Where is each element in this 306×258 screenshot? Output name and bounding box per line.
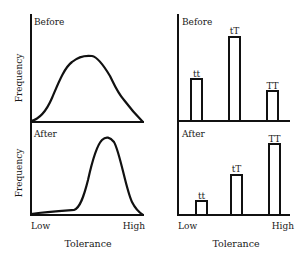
after-bar-tT-label: tT [232, 164, 242, 174]
left-top-y-label: Frequency [14, 53, 24, 103]
right-x-tick-low: Low [178, 221, 197, 231]
before-curve [31, 56, 143, 122]
tolerance-selection-diagram: Before After Frequency Frequency Low Hig… [0, 0, 306, 258]
right-panel: Before After tt tT TT tt tT TT Low High … [177, 14, 294, 249]
left-panel: Before After Frequency Frequency Low Hig… [14, 14, 145, 249]
left-bottom-y-label: Frequency [14, 148, 24, 198]
after-bar-TT-label: TT [268, 134, 280, 144]
before-bar-tt-label: tt [193, 69, 201, 79]
before-bar-tT-label: tT [230, 26, 240, 36]
left-before-title: Before [34, 17, 64, 27]
left-after-title: After [33, 129, 58, 139]
after-bar-TT [269, 144, 280, 215]
after-bar-tT [231, 175, 242, 215]
before-bar-TT [267, 91, 278, 121]
before-bar-tt [191, 79, 202, 121]
right-x-label: Tolerance [212, 238, 260, 249]
left-x-tick-low: Low [31, 221, 50, 231]
before-bar-tT [229, 37, 240, 121]
left-x-label: Tolerance [64, 238, 112, 249]
left-x-tick-high: High [123, 221, 145, 231]
after-bar-tt [196, 201, 207, 215]
right-after-title: After [181, 129, 206, 139]
after-curve [31, 138, 143, 215]
before-bar-TT-label: TT [266, 81, 278, 91]
right-x-tick-high: High [272, 221, 294, 231]
right-before-title: Before [182, 17, 212, 27]
after-bar-tt-label: tt [198, 191, 206, 201]
